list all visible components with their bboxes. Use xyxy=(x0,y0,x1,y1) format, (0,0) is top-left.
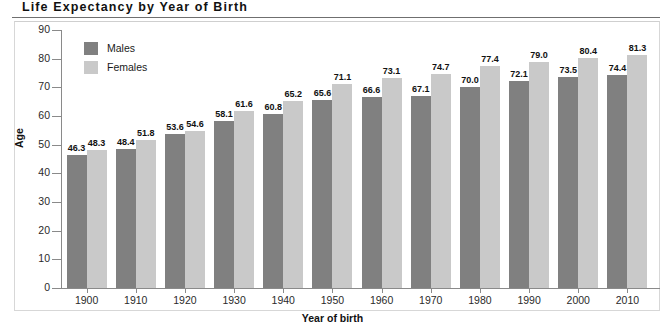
x-axis-line xyxy=(52,288,660,289)
page-title: Life Expectancy by Year of Birth xyxy=(22,0,248,14)
y-axis-tick xyxy=(52,30,61,31)
x-axis-tick xyxy=(382,288,383,293)
bar-group: 70.077.4 xyxy=(460,30,500,288)
y-axis-tick xyxy=(52,116,61,117)
bar-male-1940 xyxy=(263,114,283,288)
bar-female-1950 xyxy=(332,84,352,288)
bar-group: 67.174.7 xyxy=(411,30,451,288)
bar-female-1940 xyxy=(283,101,303,288)
y-axis-tick xyxy=(52,288,61,289)
chart-title-bar: Life Expectancy by Year of Birth xyxy=(0,0,665,20)
y-axis-label: 10 xyxy=(6,252,50,264)
bar-group: 65.671.1 xyxy=(312,30,352,288)
bar-value-label: 81.3 xyxy=(620,43,654,53)
bar-value-label: 77.4 xyxy=(473,54,507,64)
bar-group: 72.179.0 xyxy=(509,30,549,288)
bar-value-label: 54.6 xyxy=(178,119,212,129)
x-axis-tick xyxy=(627,288,628,293)
x-axis-tick xyxy=(185,288,186,293)
bar-female-1980 xyxy=(480,66,500,288)
bar-male-2010 xyxy=(607,75,627,288)
x-axis-tick xyxy=(529,288,530,293)
bar-female-2000 xyxy=(578,58,598,288)
x-axis-tick xyxy=(578,288,579,293)
bar-female-1930 xyxy=(234,111,254,288)
bar-male-1950 xyxy=(312,100,332,288)
y-axis-tick xyxy=(52,259,61,260)
bar-group: 60.865.2 xyxy=(263,30,303,288)
y-axis-label: 90 xyxy=(6,23,50,35)
bar-female-1970 xyxy=(431,74,451,288)
bar-value-label: 73.1 xyxy=(375,66,409,76)
bar-group: 74.481.3 xyxy=(607,30,647,288)
y-axis-label: 60 xyxy=(6,109,50,121)
y-axis-label: 20 xyxy=(6,224,50,236)
bar-group: 73.580.4 xyxy=(558,30,598,288)
bar-female-2010 xyxy=(627,55,647,288)
x-axis-tick xyxy=(480,288,481,293)
y-axis-label: 40 xyxy=(6,166,50,178)
y-axis-label: 80 xyxy=(6,52,50,64)
bar-value-label: 74.7 xyxy=(424,62,458,72)
bar-female-1910 xyxy=(136,140,156,288)
bar-value-label: 79.0 xyxy=(522,50,556,60)
bar-female-1960 xyxy=(382,78,402,288)
x-axis-tick xyxy=(234,288,235,293)
plot-area: 46.348.348.451.853.654.658.161.660.865.2… xyxy=(62,30,652,288)
bar-female-1900 xyxy=(87,150,107,288)
y-axis-tick xyxy=(52,59,61,60)
y-axis-label: 50 xyxy=(6,138,50,150)
bar-male-1930 xyxy=(214,121,234,288)
legend-label-males: Males xyxy=(107,42,135,54)
bar-male-1960 xyxy=(362,97,382,288)
bar-group: 53.654.6 xyxy=(165,30,205,288)
bar-male-1970 xyxy=(411,96,431,288)
bar-value-label: 80.4 xyxy=(571,46,605,56)
bar-group: 58.161.6 xyxy=(214,30,254,288)
bar-value-label: 71.1 xyxy=(325,72,359,82)
x-axis-tick xyxy=(87,288,88,293)
legend-swatch-females xyxy=(84,61,98,74)
y-axis-label: 30 xyxy=(6,195,50,207)
bar-male-2000 xyxy=(558,77,578,288)
y-axis-tick xyxy=(52,173,61,174)
bar-female-1990 xyxy=(529,62,549,288)
bar-male-1900 xyxy=(67,155,87,288)
x-axis-tick xyxy=(136,288,137,293)
bar-male-1980 xyxy=(460,87,480,288)
y-axis-label: 70 xyxy=(6,80,50,92)
x-axis-tick xyxy=(283,288,284,293)
legend-swatch-males xyxy=(84,42,98,55)
bar-male-1910 xyxy=(116,149,136,288)
y-axis-tick xyxy=(52,87,61,88)
bar-female-1920 xyxy=(185,131,205,288)
x-axis-title: Year of birth xyxy=(0,312,665,324)
x-axis-tick xyxy=(431,288,432,293)
bar-male-1990 xyxy=(509,81,529,288)
y-axis-tick xyxy=(52,231,61,232)
bar-male-1920 xyxy=(165,134,185,288)
y-axis-tick xyxy=(52,202,61,203)
y-axis-label: 0 xyxy=(6,281,50,293)
title-divider xyxy=(12,17,660,18)
legend-label-females: Females xyxy=(107,61,147,73)
x-axis-tick xyxy=(332,288,333,293)
x-axis-label-2010: 2010 xyxy=(597,294,657,306)
bar-group: 66.673.1 xyxy=(362,30,402,288)
